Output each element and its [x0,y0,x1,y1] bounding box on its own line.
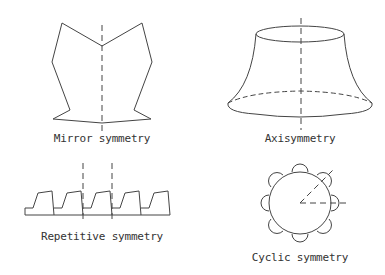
tooth-profile [25,191,170,215]
bump-bottom [292,234,308,242]
bottom-back-arc [228,91,372,103]
top-ellipse [256,26,344,42]
axisymmetry-figure [228,18,372,130]
repetitive-symmetry-label: Repetitive symmetry [41,230,163,243]
bump-top-right [317,173,331,187]
left-profile [228,34,256,103]
bump-top-left [269,173,283,187]
cyclic-symmetry-label: Cyclic symmetry [252,251,348,264]
bump-bottom-left [269,219,283,233]
bump-bottom-right [317,219,331,233]
bottom-front-arc [228,103,372,117]
bump-top [292,164,308,172]
bump-left [261,195,269,211]
repetitive-symmetry-figure [25,163,170,223]
cyclic-symmetry-figure [261,164,347,242]
cyclic-axis-diagonal [300,169,334,203]
mirror-symmetry-label: Mirror symmetry [54,132,150,145]
mirror-symmetry-figure [52,23,152,133]
axisymmetry-label: Axisymmetry [265,132,336,145]
right-profile [344,34,372,103]
